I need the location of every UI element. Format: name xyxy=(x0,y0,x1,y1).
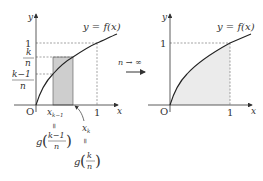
curve-label: y = f(x) xyxy=(82,21,121,32)
x-k-label: xk xyxy=(82,123,91,134)
paren-right: ) xyxy=(95,152,101,170)
y-tick-km1-den: n xyxy=(20,81,26,91)
g-km1-den: n xyxy=(54,142,59,151)
y-tick-k-num: k xyxy=(26,47,31,57)
y-axis-label: y xyxy=(161,12,168,22)
diagram-canvas: y x O y = f(x) 1 k n k−1 n 1 xk−1 = g ( … xyxy=(0,0,263,181)
y-tick-km1-num: k−1 xyxy=(12,69,31,79)
paren-left: ( xyxy=(80,152,86,170)
paren-right: ) xyxy=(66,132,72,150)
x-km1-label: xk−1 xyxy=(47,107,64,118)
x-tick-one: 1 xyxy=(227,107,233,118)
x-tick-one: 1 xyxy=(94,107,100,118)
y-axis-label: y xyxy=(27,12,34,22)
curve-label: y = f(x) xyxy=(216,21,255,32)
x-axis-label: x xyxy=(251,106,256,116)
left-graph: y x O y = f(x) 1 k n k−1 n 1 xk−1 = g ( … xyxy=(12,12,122,171)
limit-label: n → ∞ xyxy=(118,58,142,67)
curve-f xyxy=(36,34,117,105)
y-tick-one: 1 xyxy=(160,38,166,49)
g-k-num: k xyxy=(87,151,92,160)
g-km1-num: k−1 xyxy=(48,131,65,140)
y-tick-k-den: n xyxy=(25,58,31,68)
area-under-curve xyxy=(170,43,230,105)
origin-label: O xyxy=(160,106,168,117)
pointer-arrow xyxy=(75,106,84,121)
limit-transition: n → ∞ xyxy=(118,58,145,72)
paren-left: ( xyxy=(42,132,48,150)
origin-label: O xyxy=(26,106,34,117)
equals-vertical: = xyxy=(50,123,58,129)
equals-vertical: = xyxy=(81,138,89,144)
right-graph: y x O y = f(x) 1 1 xyxy=(148,12,256,118)
g-k-den: n xyxy=(87,162,92,171)
x-axis-label: x xyxy=(117,106,122,116)
